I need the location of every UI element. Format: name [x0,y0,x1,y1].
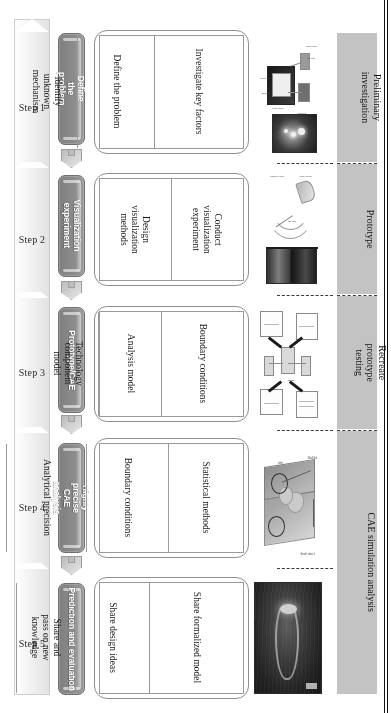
illustration-step-2: Oil flow Laser sheet Camera view [254,171,322,289]
annotation-text: Camera [297,112,306,115]
annotation-text: Bearing [262,92,270,95]
flow-photo-left [289,247,317,284]
plot-line [299,406,315,407]
task-cell: Share design ideas [75,583,149,693]
plot-box-c [296,313,318,339]
task-group-3: Boundary conditions Analysis model Techn… [94,306,249,422]
cae-3d-model: Scale ratio 1 Wall thk inlet [254,441,322,561]
annotation-text: sensor [288,379,295,382]
flow-arrow-step1-to-step2 [61,149,82,168]
illustration-separator-4-5 [277,568,333,569]
phase-label-text: Preliminary investigation [360,72,383,124]
task-cell: Statistical methods [168,444,243,552]
task-group-inner-5: Share formalized model Share design idea… [99,582,244,694]
annotation-text: Oil flow [288,220,296,223]
arrow-notch [68,149,75,156]
arrow-notch [68,556,75,563]
task-label: Statistical methods [200,462,211,534]
task-group-5: Share formalized model Share design idea… [94,577,249,699]
plot-line [299,401,315,402]
task-label: Define the problem [111,55,122,129]
photo-baseline [266,247,318,249]
task-label: Share design ideas [107,603,118,674]
rig-schematic: sensor [254,303,322,425]
step-header-label-2: Step 2 [14,234,50,245]
light-spot-b [291,132,296,137]
task-label: Boundary conditions [122,458,133,537]
flow-arrow-step4-to-step5 [61,556,82,575]
task-label: Investigate key factors [194,49,205,135]
illustration-separator-1-2 [277,163,333,164]
phase-label-text: CAE simulation analysis [365,513,377,612]
plot-box-a [296,391,318,417]
annotation-text: inlet [278,462,283,465]
machine-window [272,73,290,97]
plot-box-d [260,311,282,337]
task-cell: Define the problem [77,36,154,148]
task-label: Share and pass on new knowledge [30,610,63,666]
plot-line [264,324,280,325]
arrow-notch [68,281,75,288]
task-label: Design visualization methods [119,199,152,261]
rig-center-node [281,347,295,373]
annotation-text: Camera view [270,175,284,178]
probe-arm-d [267,337,281,349]
visualization-sketch: Oil flow Laser sheet Camera view [254,171,322,289]
task-label: Boundary conditions [197,324,208,403]
annotation-text: Open shut [306,45,317,48]
flow-streak [275,603,299,680]
task-label: Share formalized model [191,592,202,683]
task-cell: Analytical precision [6,444,86,552]
task-cell: Technology component model [38,312,98,416]
leader-line [313,499,314,528]
task-label: Analytical precision [41,460,52,537]
phase-label-prototype: Prototype [351,164,391,294]
phase-separator-2-1 [337,163,377,164]
task-cell: Identify unknown mechanism [17,36,77,148]
phase-separator-3-2 [337,295,377,296]
task-group-inner-4: Statistical methods Boundary conditions … [99,443,244,553]
task-cell: Conduct visualization experiment [171,179,243,280]
test-bench-photo [272,114,316,153]
task-cell: Design visualization methods [100,179,171,280]
task-cell: Prediction and evaluation [0,583,16,693]
task-label: Analysis model [124,334,135,393]
annotation-text: Wall thk [307,457,316,460]
illustration-step-5 [254,582,322,694]
light-spot-c [284,129,288,133]
task-cell: Share and pass on new knowledge [16,583,75,693]
plot-box-b [260,389,282,415]
link-line [269,363,283,364]
illustration-step-1: Open shut Oil flow Motor shaft Bearing G… [254,33,322,157]
step-chevron-2 [14,162,50,292]
task-group-2: Conduct visualization experiment Design … [94,173,249,286]
rig-right-node [264,356,274,376]
step-title-label-2: Visualization experiment [62,200,81,252]
task-label: Identify unknown mechanism [31,63,64,121]
task-cell: Boundary conditions [161,312,243,416]
link-line [288,92,302,93]
phase-label-cae-simulation-analysis: CAE simulation analysis [351,431,391,694]
illustration-separator-2-3 [277,295,333,296]
phase-separator-4-3 [337,430,377,431]
task-label: Technology component model [52,335,85,393]
phase-label-text: Prototype [365,210,377,249]
rig-left-node [301,356,311,376]
illustration-separator-3-4 [277,430,333,431]
task-cell: Analysis model [98,312,160,416]
task-cell: Share formalized model [149,583,243,693]
illustration-step-3: sensor [254,303,322,425]
pill-cap-bottom-2 [63,180,80,183]
task-cell: Analysis based on [0,444,6,552]
task-cell: Boundary conditions [86,444,168,552]
pill-cap-top-2 [63,269,80,272]
photo-corner-tag [306,683,317,689]
task-group-inner-1: Investigate key factors Define the probl… [99,35,244,149]
annotation-text: Oil flow [307,57,315,60]
phase-label-recreate-prototype-testing: Recreate prototype testing [351,296,391,429]
light-spot-a [298,128,305,135]
step-chevron-notch-1 [14,19,50,32]
task-group-inner-3: Boundary conditions Analysis model Techn… [99,311,244,417]
preliminary-investigation-figure: Open shut Oil flow Motor shaft Bearing G… [254,33,322,157]
phase-label-preliminary-investigation: Preliminary investigation [351,33,391,162]
